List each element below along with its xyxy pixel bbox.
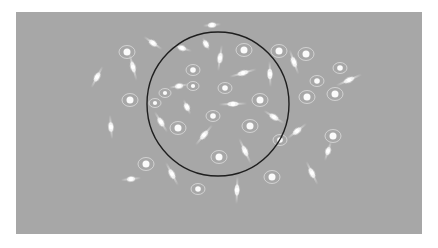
image-frame bbox=[16, 12, 422, 234]
micrograph-canvas bbox=[0, 0, 438, 248]
micrograph-figure bbox=[0, 0, 438, 248]
